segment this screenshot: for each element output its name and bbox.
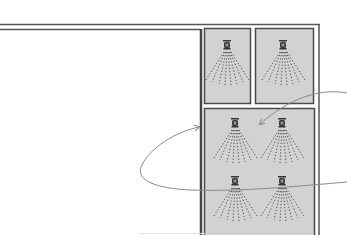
- zone-top-left: [205, 29, 251, 104]
- sprinkler-zone-diagram: [0, 0, 347, 235]
- zone-top-right: [256, 29, 314, 104]
- zone-bottom: [205, 109, 315, 236]
